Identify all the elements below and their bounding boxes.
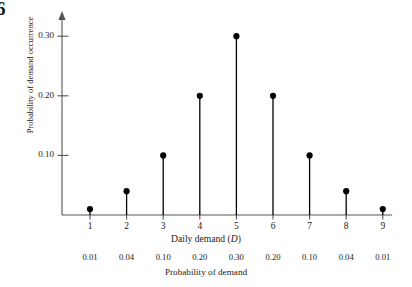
probability-value: 0.01 <box>366 252 400 262</box>
x-axis-title-paren: ) <box>238 233 241 244</box>
x-tick-label: 7 <box>298 221 322 231</box>
data-point-marker <box>87 206 93 212</box>
data-point-marker <box>160 152 166 158</box>
x-tick-label: 1 <box>78 221 102 231</box>
data-point-marker <box>197 93 203 99</box>
x-tick-marks <box>90 215 383 220</box>
x-tick-label: 3 <box>151 221 175 231</box>
probability-value: 0.30 <box>219 252 253 262</box>
figure-container: 6 Probability of demand occurrence 0.100… <box>0 0 412 287</box>
probability-value: 0.20 <box>183 252 217 262</box>
data-point-marker <box>307 152 313 158</box>
x-tick-label: 8 <box>334 221 358 231</box>
y-tick-label: 0.10 <box>20 149 54 159</box>
x-tick-label: 2 <box>115 221 139 231</box>
x-tick-label: 6 <box>261 221 285 231</box>
data-point-marker <box>124 188 130 194</box>
data-point-marker <box>233 33 239 39</box>
data-point-marker <box>343 188 349 194</box>
probability-value: 0.01 <box>73 252 107 262</box>
data-point-marker <box>270 93 276 99</box>
probability-value: 0.20 <box>256 252 290 262</box>
x-axis-title-text: Daily demand ( <box>171 233 231 244</box>
data-point-marker <box>380 206 386 212</box>
x-tick-label: 9 <box>371 221 395 231</box>
x-axis-title: Daily demand (D) <box>0 233 412 244</box>
probability-value: 0.10 <box>293 252 327 262</box>
x-tick-label: 5 <box>224 221 248 231</box>
x-axis-title-variable: D <box>231 233 238 244</box>
y-tick-label: 0.30 <box>20 30 54 40</box>
y-axis-arrowhead <box>58 11 65 20</box>
axes <box>58 11 393 220</box>
y-tick-label: 0.20 <box>20 90 54 100</box>
probability-value: 0.04 <box>110 252 144 262</box>
probability-row-title: Probability of demand <box>0 267 412 277</box>
x-tick-label: 4 <box>188 221 212 231</box>
probability-value: 0.04 <box>329 252 363 262</box>
probability-value: 0.10 <box>146 252 180 262</box>
stem-series <box>87 33 386 215</box>
y-tick-marks <box>58 36 69 155</box>
